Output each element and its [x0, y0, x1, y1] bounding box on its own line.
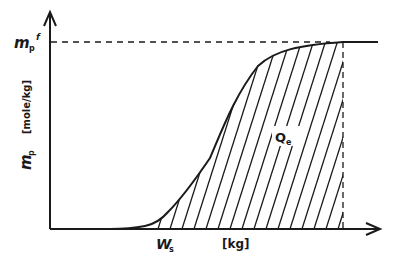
x-axis-marker: W s [156, 236, 174, 254]
area-label-symbol: Q [275, 130, 286, 145]
y-axis-symbol-sub: p [27, 150, 36, 156]
y-axis-unit: [mole/kg] [21, 80, 32, 134]
x-axis-unit: [kg] [222, 237, 250, 251]
plateau-superscript: f [36, 32, 41, 42]
area-label-subscript: e [286, 138, 292, 147]
y-axis-symbol: m p [17, 150, 36, 170]
plateau-subscript: p [29, 44, 35, 53]
plateau-symbol: m [14, 34, 30, 52]
plateau-label: m p f [14, 32, 41, 53]
breakthrough-diagram: m p f [mole/kg] m p Q e W s [kg] [0, 0, 398, 266]
x-axis-marker-subscript: s [169, 245, 174, 254]
